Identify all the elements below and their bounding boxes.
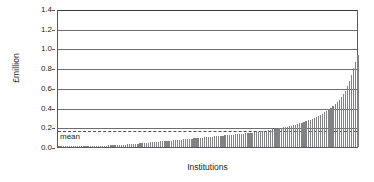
- bar: [166, 141, 167, 147]
- bar: [158, 142, 159, 147]
- bar: [293, 125, 294, 147]
- bar: [314, 118, 315, 147]
- bar: [185, 139, 186, 147]
- bar: [179, 140, 180, 147]
- y-tick-mark: [52, 89, 55, 90]
- bar: [256, 132, 257, 147]
- bar: [175, 140, 176, 147]
- bar: [343, 94, 344, 147]
- bar: [69, 146, 70, 147]
- bar: [320, 115, 321, 147]
- bar: [206, 137, 207, 147]
- bar: [96, 146, 97, 147]
- bar: [193, 138, 194, 147]
- y-tick-label: 0.0: [41, 144, 52, 152]
- bar: [177, 140, 178, 147]
- bar: [222, 136, 223, 147]
- bar: [330, 108, 331, 147]
- bar: [204, 137, 205, 147]
- chart-figure: £million 0.00.20.40.60.81.01.21.4 mean I…: [0, 0, 374, 182]
- y-tick-label: 0.8: [41, 65, 52, 73]
- y-axis-ticks: 0.00.20.40.60.81.01.21.4: [26, 0, 52, 182]
- bar: [316, 117, 317, 147]
- bar: [127, 144, 128, 147]
- bar: [254, 132, 255, 147]
- bar: [297, 124, 298, 147]
- bar: [79, 146, 80, 147]
- bar: [241, 134, 242, 147]
- bar: [349, 81, 350, 147]
- bar: [210, 137, 211, 147]
- bar: [231, 135, 232, 147]
- bar: [195, 138, 196, 147]
- bar: [183, 139, 184, 147]
- bar: [264, 131, 265, 147]
- bar: [119, 145, 120, 147]
- bar: [104, 146, 105, 147]
- bar: [278, 128, 279, 147]
- bar: [144, 143, 145, 147]
- bar: [216, 136, 217, 147]
- bar: [171, 141, 172, 148]
- bar: [141, 143, 142, 147]
- y-tick-mark: [52, 109, 55, 110]
- bar: [303, 122, 304, 147]
- bar: [285, 127, 286, 147]
- bar: [270, 130, 271, 147]
- y-tick-label: 0.6: [41, 85, 52, 93]
- bar: [339, 100, 340, 147]
- bar: [148, 143, 149, 147]
- bar: [249, 133, 250, 147]
- bar: [235, 134, 236, 147]
- bar: [322, 114, 323, 147]
- y-tick-label: 0.2: [41, 124, 52, 132]
- bar: [357, 55, 358, 147]
- bar: [73, 146, 74, 147]
- bar: [121, 145, 122, 147]
- bar: [274, 129, 275, 147]
- bar: [102, 146, 103, 147]
- bar: [92, 146, 93, 147]
- bar: [65, 146, 66, 147]
- bar: [71, 146, 72, 147]
- bar: [237, 134, 238, 147]
- bar: [67, 146, 68, 147]
- bar: [229, 135, 230, 147]
- bar: [202, 138, 203, 147]
- bar: [146, 143, 147, 147]
- bar: [227, 135, 228, 147]
- bar: [318, 116, 319, 147]
- bar: [260, 131, 261, 147]
- bar: [332, 106, 333, 147]
- bar: [173, 140, 174, 147]
- y-axis-label: £million: [11, 38, 21, 98]
- bar: [58, 146, 59, 147]
- bar: [324, 112, 325, 147]
- bar: [160, 141, 161, 147]
- y-tick-label: 0.4: [41, 105, 52, 113]
- bar: [243, 134, 244, 147]
- bar: [139, 143, 140, 147]
- bar: [123, 145, 124, 147]
- bar: [164, 141, 165, 147]
- bar: [312, 119, 313, 147]
- bar: [152, 142, 153, 147]
- bar: [197, 138, 198, 147]
- y-tick-label: 1.0: [41, 45, 52, 53]
- bar: [114, 145, 115, 147]
- bar: [301, 123, 302, 147]
- bar: [135, 144, 136, 147]
- y-tick-label: 1.4: [41, 6, 52, 14]
- bar: [200, 138, 201, 147]
- bar: [220, 136, 221, 147]
- bar: [305, 121, 306, 147]
- bar: [310, 120, 311, 147]
- bar: [353, 68, 354, 147]
- bar: [168, 141, 169, 147]
- bar: [117, 145, 118, 147]
- bar: [233, 135, 234, 147]
- bar: [150, 142, 151, 147]
- bar: [245, 133, 246, 147]
- bar: [328, 109, 329, 147]
- bar: [295, 125, 296, 147]
